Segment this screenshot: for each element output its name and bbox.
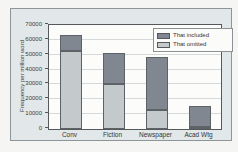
bar-segment bbox=[146, 57, 168, 110]
y-tick-label: 50000 bbox=[25, 51, 42, 57]
figure-frame: Frequency per million word 0100002000030… bbox=[10, 8, 232, 141]
y-tick-label: 60000 bbox=[25, 36, 42, 42]
legend-item: That omitted bbox=[157, 41, 229, 48]
y-tick-label: 40000 bbox=[25, 66, 42, 72]
legend-swatch-icon bbox=[157, 33, 170, 39]
legend-swatch-icon bbox=[157, 42, 170, 48]
y-tick-label: 70000 bbox=[25, 21, 42, 27]
x-tick-label: Newspaper bbox=[134, 131, 177, 140]
bar-segment bbox=[189, 106, 211, 127]
legend-label: That included bbox=[173, 32, 209, 39]
x-axis-labels: ConvFictionNewspaperAcad Wtg bbox=[48, 131, 220, 140]
chart-figure-page: Frequency per million word 0100002000030… bbox=[0, 0, 238, 152]
x-tick-label: Fiction bbox=[91, 131, 134, 140]
bar-segment bbox=[103, 84, 125, 129]
x-tick-label: Conv bbox=[48, 131, 91, 140]
y-axis-ticks: 010000200003000040000500006000070000 bbox=[11, 24, 48, 128]
y-tick-label: 20000 bbox=[25, 95, 42, 101]
bar-segment bbox=[189, 127, 211, 129]
stacked-bar-conv bbox=[60, 25, 82, 129]
bar-slot bbox=[49, 25, 92, 129]
bar-segment bbox=[103, 53, 125, 84]
x-tick-label: Acad Wtg bbox=[177, 131, 220, 140]
legend: That includedThat omitted bbox=[153, 28, 233, 52]
stacked-bar-fiction bbox=[103, 25, 125, 129]
legend-label: That omitted bbox=[173, 41, 206, 48]
bar-slot bbox=[92, 25, 135, 129]
y-tick-label: 30000 bbox=[25, 80, 42, 86]
y-tick-label: 0 bbox=[39, 125, 42, 131]
bar-segment bbox=[146, 110, 168, 129]
bar-segment bbox=[60, 35, 82, 51]
bar-segment bbox=[60, 51, 82, 129]
y-tick-label: 10000 bbox=[25, 110, 42, 116]
legend-item: That included bbox=[157, 32, 229, 39]
